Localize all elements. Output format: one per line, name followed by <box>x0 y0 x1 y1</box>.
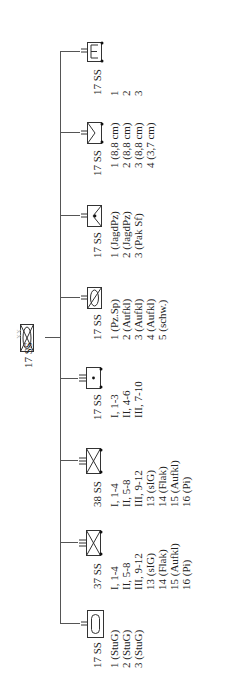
branch-label: 17 SS <box>91 642 103 668</box>
root-echelon-mark: XX <box>15 329 23 339</box>
subunit-list: I, 1-4 II, 5-8 III, 9-12 13 (sIG) 14 (Fl… <box>108 543 192 590</box>
branch-label: 17 SS <box>91 69 103 95</box>
branch-symbol-engineer <box>81 40 109 64</box>
branch-symbol-regiment-37 <box>79 528 109 558</box>
root-connector <box>45 337 61 338</box>
branch-symbol-regiment-38 <box>79 446 109 476</box>
branch-label: 17 SS <box>91 394 103 420</box>
subunit-list: I, 1-3 II, 4-6 III, 7-10 <box>108 381 144 418</box>
branch-connector <box>60 215 80 216</box>
branch-label: 17 SS <box>91 314 103 340</box>
subunit-list: 1 2 3 <box>108 91 144 97</box>
subunit-list: 1 (Pz.Sp) 2 (Aufkl) 3 (Aufkl) 4 (Aufkl) … <box>108 299 168 340</box>
branch-symbol-flak <box>81 120 109 146</box>
subunit-list: I, 1-4 II, 5-8 III, 9-12 13 (sIG) 14 (Fl… <box>108 460 192 507</box>
subunit-list: 1 (8,8 cm) 2 (8,8 cm) 3 (8,8 cm) 4 (3,7 … <box>108 122 156 168</box>
branch-symbol-stug <box>81 609 109 639</box>
branch-symbol-antitank <box>81 203 109 229</box>
root-label: 17 SS <box>22 342 34 368</box>
branch-connector <box>60 51 80 52</box>
subunit-list: 1 (StuG) 2 (StuG) 3 (StuG) <box>108 630 144 668</box>
branch-label: 37 SS <box>91 563 103 589</box>
branch-connector <box>60 132 80 133</box>
branch-connector <box>60 378 78 379</box>
branch-connector <box>60 297 80 298</box>
branch-label: 17 SS <box>91 232 103 258</box>
branch-connector <box>60 542 78 543</box>
branch-connector <box>60 460 78 461</box>
branch-symbol-artillery <box>79 365 109 391</box>
branch-connector <box>60 623 80 624</box>
branch-label: 17 SS <box>91 150 103 176</box>
branch-symbol-recon <box>81 285 109 311</box>
branch-label: 38 SS <box>91 481 103 507</box>
subunit-list: 1 (JagdPz) 2 (JagdPz) 3 (Pak Sf) <box>108 211 144 258</box>
